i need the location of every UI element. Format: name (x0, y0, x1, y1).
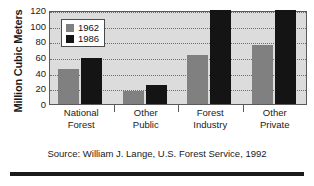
bar-1986 (275, 10, 296, 104)
x-axis-label-line: Forest (49, 119, 114, 131)
bottom-rule (10, 172, 304, 176)
plot-area: 1962 1986 (49, 11, 307, 105)
y-axis-tick-label: 0 (20, 100, 46, 110)
x-axis-label-line: Other (114, 107, 179, 119)
x-axis-label-line: Public (114, 119, 179, 131)
bar-1962 (58, 69, 79, 104)
x-axis-label-line: Forest (178, 107, 243, 119)
legend-label-1962: 1962 (78, 23, 99, 33)
bar-1986 (81, 58, 102, 104)
x-axis-label: ForestIndustry (178, 107, 243, 131)
y-axis-tick-label: 40 (20, 69, 46, 79)
bar-1962 (252, 45, 273, 104)
legend-entry-1986: 1986 (66, 33, 99, 44)
x-axis-label: OtherPublic (114, 107, 179, 131)
x-axis-label: OtherPrivate (243, 107, 308, 131)
bar-1962 (123, 91, 144, 104)
bar-chart-figure: Million Cubic Meters 020406080100120 196… (0, 0, 314, 186)
y-axis-tick-label: 80 (20, 38, 46, 48)
black-swatch-icon (66, 35, 74, 43)
bar-1962 (187, 55, 208, 104)
y-axis-tick-label: 60 (20, 53, 46, 63)
y-axis-tick-labels: 020406080100120 (20, 8, 46, 105)
x-axis-label: NationalForest (49, 107, 114, 131)
bar-group (115, 12, 180, 104)
bar-1986 (210, 10, 231, 104)
x-axis-label-line: Other (243, 107, 308, 119)
x-axis-label-line: Industry (178, 119, 243, 131)
x-axis-label-line: Private (243, 119, 308, 131)
gray-swatch-icon (66, 24, 74, 32)
legend-label-1986: 1986 (78, 34, 99, 44)
chart-legend: 1962 1986 (61, 19, 105, 47)
y-axis-tick-label: 120 (20, 6, 46, 16)
legend-entry-1962: 1962 (66, 22, 99, 33)
x-axis-category-labels: NationalForestOtherPublicForestIndustryO… (49, 107, 307, 137)
y-axis-tick-label: 20 (20, 85, 46, 95)
bar-group (179, 12, 244, 104)
y-axis-tick-label: 100 (20, 22, 46, 32)
source-caption: Source: William J. Lange, U.S. Forest Se… (0, 148, 314, 159)
bar-group (244, 12, 309, 104)
bar-1986 (146, 85, 167, 104)
x-axis-label-line: National (49, 107, 114, 119)
